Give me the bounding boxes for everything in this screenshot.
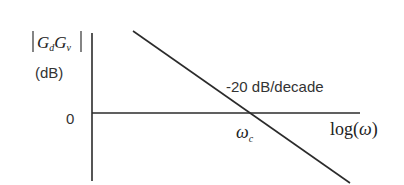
magnitude-asymptote-line	[133, 31, 350, 183]
y-axis-label: GdGv	[33, 31, 81, 53]
y-axis-unit: (dB)	[35, 64, 63, 81]
x-axis-label: log(ω)	[330, 119, 378, 140]
bode-plot: GdGv (dB) 0 -20 dB/decade ωc log(ω)	[0, 0, 404, 185]
slope-label: -20 dB/decade	[226, 78, 324, 95]
svg-text:GdGv: GdGv	[37, 33, 72, 53]
crossover-frequency-label: ωc	[236, 122, 254, 144]
y-zero-tick-label: 0	[66, 110, 74, 127]
